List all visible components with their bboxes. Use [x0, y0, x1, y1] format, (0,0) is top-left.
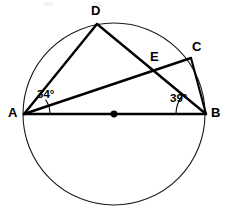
angle-label-a: 34°	[37, 89, 54, 101]
segment-db	[97, 24, 206, 114]
geometry-diagram: A B C D E 34° 39°	[0, 0, 226, 220]
point-label-b: B	[211, 106, 220, 119]
circle-center-dot	[111, 111, 118, 118]
angle-label-b: 39°	[170, 93, 187, 105]
geometry-canvas	[0, 0, 226, 220]
segment-cb	[191, 58, 206, 114]
point-label-d: D	[91, 4, 100, 17]
point-label-e: E	[150, 50, 159, 63]
point-label-a: A	[8, 106, 17, 119]
point-label-c: C	[192, 40, 201, 53]
